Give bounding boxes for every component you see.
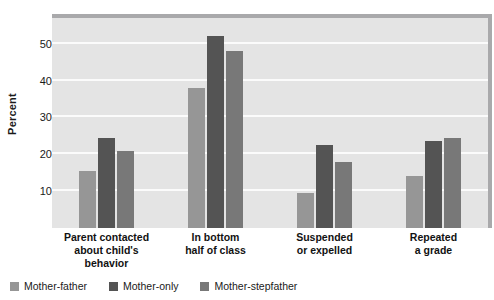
bar-series-container	[52, 18, 488, 228]
bar	[297, 193, 314, 228]
category-label-line: behavior	[54, 257, 159, 270]
category-label: Parent contactedabout child'sbehavior	[52, 231, 161, 270]
legend-label: Mother-only	[123, 280, 178, 292]
category-label-line: Parent contacted	[54, 231, 159, 244]
legend-item: Mother-only	[109, 280, 178, 292]
bar	[406, 176, 423, 228]
y-tick-label: 30	[26, 111, 52, 123]
y-tick-label: 40	[26, 75, 52, 87]
chart-legend: Mother-fatherMother-onlyMother-stepfathe…	[10, 280, 319, 292]
legend-label: Mother-stepfather	[214, 280, 297, 292]
bar	[335, 162, 352, 228]
category-label-line: Suspended	[272, 231, 377, 244]
legend-item: Mother-father	[10, 280, 87, 292]
category-label-line: or expelled	[272, 244, 377, 257]
category-label: Suspendedor expelled	[270, 231, 379, 270]
legend-swatch-icon	[200, 282, 209, 291]
bar-group	[270, 18, 379, 228]
category-label: In bottomhalf of class	[161, 231, 270, 270]
y-tick-label: 50	[26, 38, 52, 50]
bar	[444, 138, 461, 228]
plot-area	[52, 18, 488, 228]
category-label: Repeateda grade	[379, 231, 488, 270]
legend-item: Mother-stepfather	[200, 280, 297, 292]
bar	[316, 145, 333, 228]
y-tick-label: 10	[26, 185, 52, 197]
bar-group	[52, 18, 161, 228]
bar	[425, 141, 442, 228]
legend-swatch-icon	[109, 282, 118, 291]
category-label-line: a grade	[381, 244, 486, 257]
legend-label: Mother-father	[24, 280, 87, 292]
y-tick-label: 20	[26, 148, 52, 160]
bar	[117, 151, 134, 228]
category-label-line: In bottom	[163, 231, 268, 244]
bar-group	[379, 18, 488, 228]
category-label-line: half of class	[163, 244, 268, 257]
bar	[188, 88, 205, 228]
bar-group	[161, 18, 270, 228]
legend-swatch-icon	[10, 282, 19, 291]
bar	[207, 36, 224, 228]
bar	[98, 138, 115, 228]
category-label-line: about child's	[54, 244, 159, 257]
y-axis-tick-labels: 1020304050	[26, 14, 52, 228]
x-axis-category-labels: Parent contactedabout child'sbehaviorIn …	[52, 231, 488, 270]
bar-chart-figure: Percent 1020304050 Parent contactedabout…	[0, 0, 494, 300]
y-axis-title: Percent	[6, 78, 18, 150]
category-label-line: Repeated	[381, 231, 486, 244]
bar	[226, 51, 243, 228]
bar	[79, 171, 96, 228]
